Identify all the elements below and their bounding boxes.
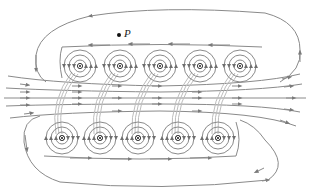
- bottom-wire-row: [44, 122, 236, 154]
- wire-out-of-page: [102, 50, 138, 82]
- wire-into-page: [160, 122, 196, 154]
- wire-out-of-page: [142, 50, 178, 82]
- point-p-marker: [117, 33, 121, 37]
- wire-into-page: [200, 122, 236, 154]
- wire-out-of-page: [222, 50, 258, 82]
- wire-out-of-page: [182, 50, 218, 82]
- solenoid-field-diagram: [0, 0, 317, 196]
- interior-field-lines: [4, 74, 306, 126]
- wire-into-page: [120, 122, 156, 154]
- wire-into-page: [82, 122, 118, 154]
- point-p-label: P: [124, 27, 131, 39]
- top-wire-row: [62, 50, 258, 82]
- wire-out-of-page: [62, 50, 98, 82]
- wire-into-page: [44, 122, 80, 154]
